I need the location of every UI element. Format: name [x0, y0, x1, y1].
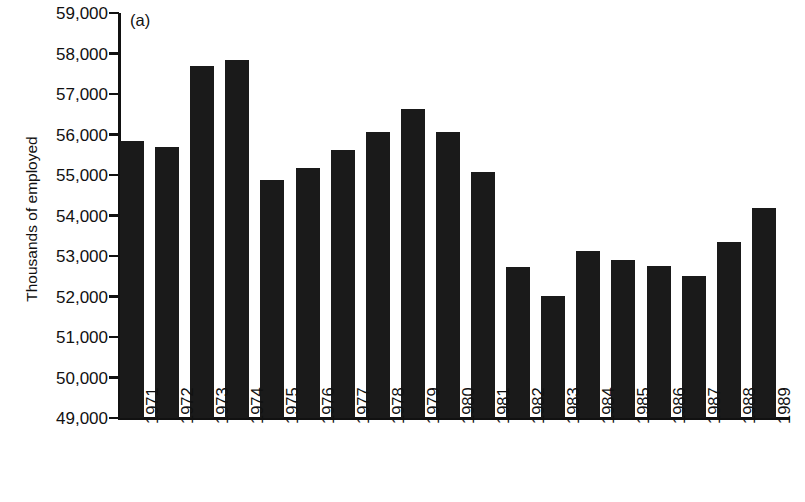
- x-axis-tick-label: 1982: [506, 422, 530, 492]
- x-axis-tick-label-text: 1980: [456, 387, 480, 424]
- x-axis-tick-label: 1989: [752, 422, 776, 492]
- x-axis-tick-label: 1977: [331, 422, 355, 492]
- x-axis-tick-label-text: 1975: [280, 387, 304, 424]
- x-axis-tick-label-text: 1988: [737, 387, 761, 424]
- x-axis-tick-label-text: 1986: [667, 387, 691, 424]
- x-axis-tick-label: 1976: [296, 422, 320, 492]
- bar-chart: Thousands of employed 59,00058,00057,000…: [0, 0, 805, 502]
- x-axis-tick-labels: 1971197219731974197519761977197819791980…: [120, 422, 788, 502]
- x-axis-tick-label-text: 1983: [561, 387, 585, 424]
- x-axis-tick-label: 1986: [647, 422, 671, 492]
- bar: [366, 132, 390, 418]
- y-axis-tick-label: 50,000: [30, 369, 108, 386]
- x-axis-tick-label: 1984: [576, 422, 600, 492]
- x-axis-tick-label-text: 1982: [526, 387, 550, 424]
- y-axis-tick-label: 59,000: [30, 5, 108, 22]
- y-axis-tick-mark: [109, 12, 119, 15]
- x-axis-tick-label-text: 1977: [351, 387, 375, 424]
- y-axis-tick-mark: [109, 417, 119, 420]
- y-axis-tick-label: 55,000: [30, 167, 108, 184]
- x-axis-tick-label: 1975: [260, 422, 284, 492]
- y-axis-tick-mark: [109, 133, 119, 136]
- x-axis-tick-label: 1972: [155, 422, 179, 492]
- y-axis-tick-label: 53,000: [30, 248, 108, 265]
- x-axis-tick-label: 1983: [541, 422, 565, 492]
- y-axis-tick-mark: [109, 93, 119, 96]
- y-axis-tick-mark: [109, 336, 119, 339]
- y-axis-tick-mark: [109, 376, 119, 379]
- x-axis-tick-label: 1974: [225, 422, 249, 492]
- plot-area: [120, 13, 788, 418]
- x-axis-tick-label: 1980: [436, 422, 460, 492]
- y-axis-tick-label: 49,000: [30, 410, 108, 427]
- y-axis-tick-label: 58,000: [30, 45, 108, 62]
- x-axis-tick-label-text: 1981: [491, 387, 515, 424]
- x-axis-tick-label-text: 1974: [245, 387, 269, 424]
- y-axis-tick-mark: [109, 255, 119, 258]
- x-axis-tick-label-text: 1985: [631, 387, 655, 424]
- bar: [155, 147, 179, 418]
- x-axis-tick-label: 1971: [120, 422, 144, 492]
- x-axis-tick-label-text: 1984: [596, 387, 620, 424]
- bar: [260, 180, 284, 418]
- y-axis-tick-mark: [109, 52, 119, 55]
- bar: [190, 66, 214, 418]
- bar: [471, 172, 495, 418]
- bar: [120, 141, 144, 418]
- bar: [296, 168, 320, 418]
- y-axis-tick-mark: [109, 174, 119, 177]
- x-axis-tick-label: 1987: [682, 422, 706, 492]
- x-axis-tick-label: 1973: [190, 422, 214, 492]
- x-axis-tick-label: 1979: [401, 422, 425, 492]
- x-axis-tick-label-text: 1979: [421, 387, 445, 424]
- panel-label: (a): [130, 11, 150, 30]
- x-axis-tick-label-text: 1976: [316, 387, 340, 424]
- x-axis-tick-label-text: 1989: [772, 387, 796, 424]
- y-axis-tick-label: 56,000: [30, 126, 108, 143]
- y-axis-tick-label: 51,000: [30, 329, 108, 346]
- y-axis-tick-label: 52,000: [30, 288, 108, 305]
- x-axis-tick-label: 1978: [366, 422, 390, 492]
- x-axis-tick-label-text: 1978: [386, 387, 410, 424]
- y-axis-tick-mark: [109, 214, 119, 217]
- x-axis-tick-label-text: 1987: [702, 387, 726, 424]
- bar: [401, 109, 425, 418]
- y-axis-tick-label: 54,000: [30, 207, 108, 224]
- y-axis-tick-mark: [109, 295, 119, 298]
- y-axis-tick-labels: 59,00058,00057,00056,00055,00054,00053,0…: [28, 0, 108, 502]
- x-axis-tick-label-text: 1972: [175, 387, 199, 424]
- y-axis-tick-label: 57,000: [30, 86, 108, 103]
- x-axis-tick-label: 1981: [471, 422, 495, 492]
- x-axis-tick-label-text: 1973: [210, 387, 234, 424]
- x-axis-tick-label: 1985: [611, 422, 635, 492]
- x-axis-tick-label-text: 1971: [140, 387, 164, 424]
- bar: [225, 60, 249, 418]
- bar: [331, 150, 355, 418]
- bar: [436, 132, 460, 418]
- x-axis-tick-label: 1988: [717, 422, 741, 492]
